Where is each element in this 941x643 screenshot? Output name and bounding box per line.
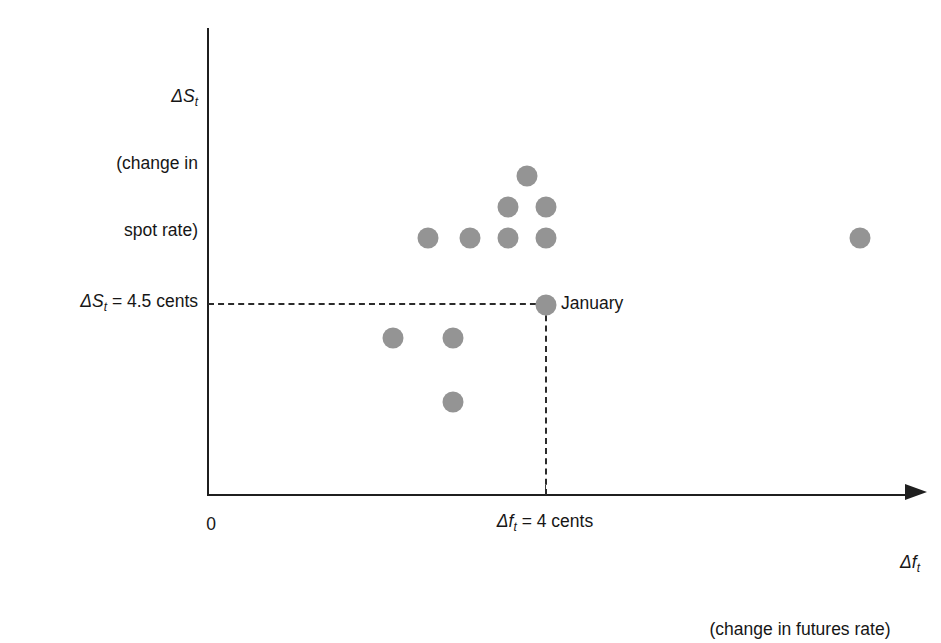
data-point [536,197,557,218]
y-axis-title: ΔSt (change in spot rate) [40,40,198,286]
x-axis-title: Δft (change in futures rate) [672,506,928,643]
data-point [517,166,538,187]
data-point [443,392,464,413]
x-axis-line [207,494,913,496]
data-point [498,228,519,249]
y-axis-title-line3: spot rate) [40,219,198,241]
x-axis-title-line2: (change in futures rate) [672,618,928,640]
reference-line-spot-rate [208,303,546,305]
x-axis-title-symbol: Δft [672,551,928,573]
data-point [460,228,481,249]
data-point [443,328,464,349]
data-point-january [536,295,557,316]
x-axis-origin-label: 0 [200,513,222,535]
reference-line-futures-rate-value: = 4 cents [517,511,593,531]
reference-line-spot-rate-label: ΔSt = 4.5 cents [18,290,198,312]
january-point-label: January [561,292,623,314]
data-point-outlier [850,228,871,249]
reference-line-spot-rate-value: = 4.5 cents [107,291,198,311]
y-axis-title-symbol: ΔSt [40,85,198,107]
data-point [498,197,519,218]
reference-line-futures-rate [545,305,547,495]
y-axis-title-line2: (change in [40,152,198,174]
reference-line-futures-rate-label: Δft = 4 cents [469,510,621,532]
data-point [536,228,557,249]
data-point [418,228,439,249]
data-point [383,328,404,349]
y-axis-line [207,28,209,496]
x-axis-arrow-icon [905,484,927,500]
